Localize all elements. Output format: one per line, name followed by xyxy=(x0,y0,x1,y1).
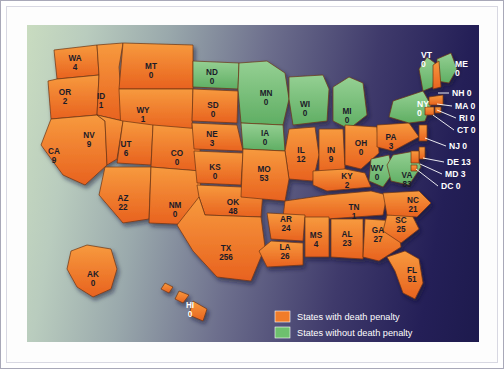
state-code-LA: LA xyxy=(280,243,291,252)
state-code-IA: IA xyxy=(261,129,269,138)
callout-value-NY: 0 xyxy=(417,108,422,118)
state-code-UT: UT xyxy=(121,140,132,149)
state-MI[interactable] xyxy=(333,77,367,129)
callout-value-ME: 0 xyxy=(455,68,460,78)
state-value-VA: 83 xyxy=(402,180,412,189)
callout-leader-NJ xyxy=(425,138,446,146)
state-code-ND: ND xyxy=(206,68,218,77)
state-value-WA: 4 xyxy=(73,63,78,72)
state-FL[interactable] xyxy=(387,251,423,299)
map-svg: WA4OR2ID1MT0ND0SD0MN0WI0MI0IA0WY1NE3NV9U… xyxy=(27,25,479,342)
state-MD[interactable] xyxy=(411,151,419,163)
legend-label-without: States without death penalty xyxy=(297,328,413,338)
state-code-OR: OR xyxy=(59,88,71,97)
state-label-AL: AL23 xyxy=(342,230,353,248)
state-value-MI: 0 xyxy=(345,116,350,125)
state-code-WA: WA xyxy=(68,54,81,63)
callout-text-DE: DE 13 xyxy=(447,157,471,167)
callout-text-DC: DC 0 xyxy=(441,181,461,191)
state-value-TX: 256 xyxy=(219,253,233,262)
state-value-OK: 48 xyxy=(228,207,238,216)
state-label-NC: NC21 xyxy=(407,196,419,214)
state-value-MS: 4 xyxy=(314,240,319,249)
state-value-AL: 23 xyxy=(342,239,352,248)
state-value-GA: 27 xyxy=(373,235,383,244)
state-label-AZ: AZ22 xyxy=(118,194,129,212)
state-code-NV: NV xyxy=(83,131,95,140)
callout-ME: ME0 xyxy=(455,59,468,78)
state-code-KS: KS xyxy=(209,163,221,172)
state-value-NM: 0 xyxy=(173,210,178,219)
state-value-CO: 0 xyxy=(175,158,180,167)
state-value-UT: 6 xyxy=(124,149,129,158)
state-value-WV: 0 xyxy=(375,173,380,182)
state-value-MT: 0 xyxy=(149,71,154,80)
state-label-LA: LA26 xyxy=(280,243,291,261)
state-code-CA: CA xyxy=(48,147,60,156)
callout-leader-CT xyxy=(433,115,454,130)
state-code-ID: ID xyxy=(97,92,105,101)
state-value-LA: 26 xyxy=(280,252,290,261)
state-label-TX: TX256 xyxy=(219,244,233,262)
state-value-PA: 3 xyxy=(389,142,394,151)
state-code-AZ: AZ xyxy=(118,194,129,203)
state-value-AK: 0 xyxy=(91,279,96,288)
state-value-KY: 2 xyxy=(345,181,350,190)
callout-text-NH: NH 0 xyxy=(452,88,472,98)
callout-text-MA: MA 0 xyxy=(455,101,475,111)
state-code-CO: CO xyxy=(171,149,184,158)
state-value-FL: 51 xyxy=(407,275,417,284)
callout-text-MD: MD 3 xyxy=(445,169,466,179)
state-value-TN: 1 xyxy=(352,212,357,221)
callout-text-CT: CT 0 xyxy=(457,125,476,135)
state-value-ID: 1 xyxy=(99,101,104,110)
state-label-IL: IL12 xyxy=(296,146,306,164)
state-HI-island-1[interactable] xyxy=(161,283,173,293)
legend-label-with: States with death penalty xyxy=(297,312,400,322)
state-OR[interactable] xyxy=(48,75,99,119)
state-code-NC: NC xyxy=(407,196,419,205)
state-code-IL: IL xyxy=(297,146,304,155)
us-death-penalty-map: WA4OR2ID1MT0ND0SD0MN0WI0MI0IA0WY1NE3NV9U… xyxy=(27,25,479,342)
state-code-WV: WV xyxy=(370,164,384,173)
state-code-MS: MS xyxy=(310,231,323,240)
state-code-AL: AL xyxy=(342,230,353,239)
state-value-OR: 2 xyxy=(63,97,68,106)
state-code-WY: WY xyxy=(136,106,150,115)
state-DE[interactable] xyxy=(419,147,425,159)
state-code-SC: SC xyxy=(395,216,406,225)
state-code-MN: MN xyxy=(260,89,273,98)
callout-RI: RI 0 xyxy=(437,110,475,123)
state-code-OH: OH xyxy=(355,139,367,148)
state-value-NC: 21 xyxy=(408,205,418,214)
state-PA[interactable] xyxy=(377,123,419,151)
state-value-SC: 25 xyxy=(396,225,406,234)
state-value-KS: 0 xyxy=(213,172,218,181)
state-code-SD: SD xyxy=(207,101,218,110)
state-label-SC: SC25 xyxy=(395,216,406,234)
callout-NJ: NJ 0 xyxy=(425,138,467,151)
callout-text-RI: RI 0 xyxy=(459,113,475,123)
state-label-AR: AR24 xyxy=(280,215,292,233)
state-code-KY: KY xyxy=(341,172,353,181)
state-value-HI: 0 xyxy=(188,310,193,319)
state-MA[interactable] xyxy=(429,95,443,105)
state-code-OK: OK xyxy=(227,198,239,207)
state-code-TN: TN xyxy=(349,203,360,212)
state-value-MO: 53 xyxy=(259,174,269,183)
legend-swatch-without xyxy=(275,327,290,338)
states-group xyxy=(41,43,457,321)
callout-value-VT: 0 xyxy=(421,59,426,69)
state-label-FL: FL51 xyxy=(407,266,417,284)
callout-leader-MD xyxy=(420,164,442,174)
state-value-WI: 0 xyxy=(303,109,308,118)
state-value-ND: 0 xyxy=(210,77,215,86)
state-code-HI: HI xyxy=(186,301,194,310)
state-value-AZ: 22 xyxy=(118,203,128,212)
callout-DE: DE 13 xyxy=(423,157,471,167)
state-value-SD: 0 xyxy=(211,110,216,119)
legend-swatch-with xyxy=(275,311,290,322)
state-label-OK: OK48 xyxy=(227,198,239,216)
state-code-NE: NE xyxy=(206,130,218,139)
state-code-VA: VA xyxy=(402,171,413,180)
